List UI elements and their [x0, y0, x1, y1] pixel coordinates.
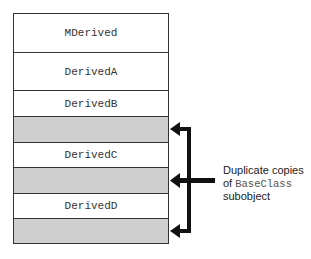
baseclass-code: BaseClass: [235, 178, 292, 190]
duplicate-copies-annotation: Duplicate copies of BaseClass subobject: [223, 164, 304, 203]
annotation-line-2: of BaseClass: [223, 177, 304, 191]
arrow-left-icon: [170, 224, 180, 238]
annotation-line-1: Duplicate copies: [223, 164, 304, 177]
pointer-arrows: [0, 0, 311, 259]
annotation-prefix: of: [223, 177, 235, 189]
annotation-line-3: subobject: [223, 190, 304, 203]
arrow-left-icon: [170, 122, 180, 136]
arrow-left-icon: [170, 173, 180, 188]
arrow-group-icon: [170, 122, 215, 238]
